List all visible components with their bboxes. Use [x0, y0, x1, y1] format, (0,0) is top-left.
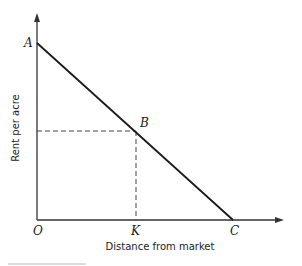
origin-label-o: O — [33, 224, 43, 238]
point-label-b: B — [139, 116, 149, 130]
x-axis-arrow-icon — [275, 217, 284, 223]
point-label-c: C — [230, 224, 239, 238]
x-axis-title: Distance from market — [106, 241, 215, 252]
y-axis-arrow-icon — [34, 13, 40, 22]
rent-gradient-line — [37, 43, 233, 220]
marker-label-k: K — [130, 224, 141, 238]
cropped-caption-remnant — [8, 263, 86, 265]
rent-gradient-diagram: A B C O K Distance from market Rent per … — [0, 0, 302, 266]
point-label-a: A — [23, 36, 33, 50]
y-axis-title: Rent per acre — [10, 94, 21, 162]
